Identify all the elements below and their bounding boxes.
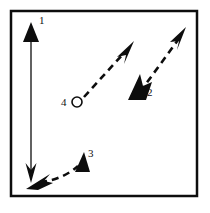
label-4: 4 xyxy=(61,96,67,108)
arrow-1 xyxy=(23,22,39,183)
arrow-1-head-up xyxy=(23,22,39,42)
origin-circle xyxy=(72,97,82,107)
arrow-4 xyxy=(72,41,134,107)
arrow-2 xyxy=(128,27,186,100)
vector-diagram-figure: 1 2 3 4 xyxy=(0,0,210,213)
figure-canvas: 1 2 3 4 xyxy=(0,0,210,213)
arrow-3-shaft xyxy=(40,166,78,182)
arrow-3 xyxy=(26,152,90,190)
arrow-2-head-upright xyxy=(170,27,186,50)
label-1: 1 xyxy=(39,14,45,26)
arrow-4-head-upright xyxy=(117,41,134,64)
label-3: 3 xyxy=(88,147,94,159)
arrow-4-shaft xyxy=(84,53,124,97)
label-2: 2 xyxy=(147,86,153,98)
figure-border xyxy=(11,11,197,196)
arrow-2-shaft xyxy=(140,40,178,92)
